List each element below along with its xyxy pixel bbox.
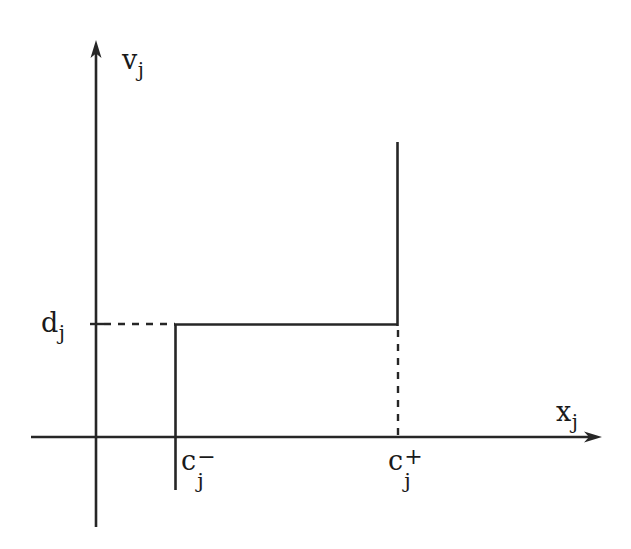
y-tick-label-subscript: j [59, 321, 65, 345]
step-function-svg [0, 0, 631, 549]
figure-container: vj xj dj c−j c+j [0, 0, 631, 549]
x-axis-label: xj [556, 398, 578, 432]
x-tick-label-cj-plus: c+j [388, 447, 403, 474]
x-tick-label-cj-minus: c−j [181, 447, 196, 474]
cj-minus-superscript: − [197, 446, 215, 468]
y-tick-label-base: d [41, 307, 58, 338]
cj-minus-subscript: j [197, 471, 204, 492]
cj-plus-superscript: + [404, 446, 422, 468]
y-tick-label-dj: dj [41, 309, 65, 343]
cj-minus-base: c [181, 445, 196, 476]
cj-plus-subscript: j [404, 471, 411, 492]
x-axis-label-base: x [556, 396, 571, 427]
axes-group [31, 40, 602, 527]
y-axis-label: vj [122, 46, 144, 80]
cj-plus-base: c [388, 445, 403, 476]
y-axis-label-base: v [122, 44, 137, 75]
y-axis-label-subscript: j [138, 58, 144, 82]
x-axis-label-subscript: j [572, 410, 578, 434]
